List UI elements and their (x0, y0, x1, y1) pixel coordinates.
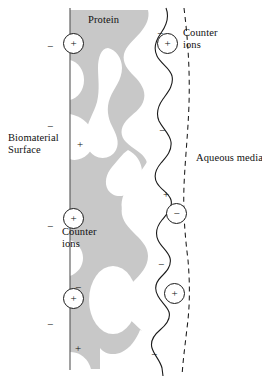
minus-right-4: − (148, 348, 160, 360)
minus-left-3: − (44, 220, 56, 232)
counter-ion-plus-right-low: + (164, 283, 185, 304)
counter-ion-plus-right-top: + (157, 33, 178, 54)
label-biomaterial-surface: Biomaterial Surface (8, 132, 59, 156)
counter-ion-minus-right-mid: − (166, 203, 187, 224)
diagram-vector-layer (0, 0, 262, 376)
protein-void-lower-oval (89, 266, 137, 334)
minus-left-1: − (44, 40, 56, 52)
label-protein: Protein (88, 14, 119, 26)
label-counter-ions-left: Counter ions (62, 226, 97, 250)
minus-left-5: − (44, 318, 56, 330)
plus-right-1: + (160, 188, 172, 200)
plus-left-2: + (72, 342, 84, 354)
counter-ion-plus-left-top: + (63, 33, 84, 54)
label-aqueous-media: Aqueous media (196, 152, 262, 164)
label-counter-ions-right: Counter ions (183, 27, 218, 51)
figure-canvas: Protein Biomaterial Surface Counter ions… (0, 0, 262, 376)
minus-right-3: − (155, 258, 167, 270)
minus-left-2: − (44, 120, 56, 132)
counter-ion-plus-left-mid: + (63, 208, 84, 229)
diffuse-layer-boundary (182, 8, 189, 376)
plus-left-1: + (74, 138, 86, 150)
minus-right-2: − (156, 124, 168, 136)
counter-ion-plus-left-low: + (63, 288, 84, 309)
